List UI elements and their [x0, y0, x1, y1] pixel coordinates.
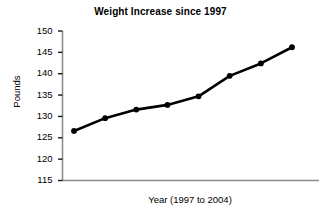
line-chart: Weight Increase since 1997 Pounds Year (…: [0, 0, 321, 216]
y-axis-tick-label: 145: [25, 47, 53, 57]
data-point: [258, 61, 264, 67]
y-axis-tick-label: 120: [25, 154, 53, 164]
data-markers: [71, 44, 295, 134]
data-point: [133, 107, 139, 113]
y-axis-tick-label: 130: [25, 111, 53, 121]
y-axis-tick-label: 125: [25, 132, 53, 142]
data-point: [165, 102, 171, 108]
y-axis-tick-label: 115: [25, 175, 53, 185]
y-axis-tick-label: 140: [25, 68, 53, 78]
data-point: [227, 73, 233, 79]
y-axis-tick-label: 135: [25, 90, 53, 100]
data-point: [71, 128, 77, 134]
data-point: [102, 115, 108, 121]
data-point: [289, 44, 295, 50]
data-point: [196, 93, 202, 99]
y-axis-tick-label: 150: [25, 26, 53, 36]
